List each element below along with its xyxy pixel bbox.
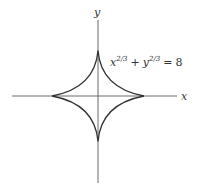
eq-x-exp: 2/3 bbox=[115, 55, 128, 63]
curve-equation: x2/3+y2/3=8 bbox=[110, 55, 182, 69]
eq-equals: = bbox=[163, 56, 172, 69]
x-axis-label: x bbox=[181, 90, 188, 103]
eq-plus: + bbox=[130, 56, 139, 69]
eq-y-exp: 2/3 bbox=[148, 55, 161, 63]
y-axis-label: y bbox=[93, 6, 101, 19]
astroid-diagram: y x x2/3+y2/3=8 bbox=[0, 0, 200, 188]
eq-rhs: 8 bbox=[175, 56, 182, 69]
